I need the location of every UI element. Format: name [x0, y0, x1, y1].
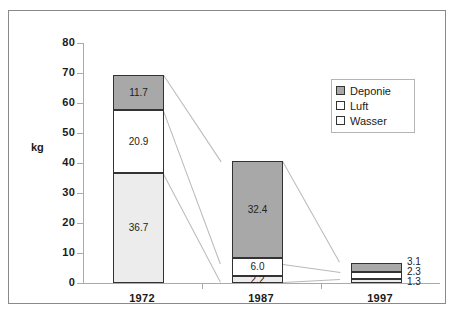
y-tick-label-60-wrap: 60 [9, 96, 75, 110]
y-tick-80 [77, 43, 84, 44]
bar-group-1997[interactable]: 3.1 2.3 1.3 [351, 11, 402, 283]
gray-filled-swatch-icon [336, 86, 345, 95]
y-axis-title: kg [31, 141, 44, 153]
y-tick-label-20: 20 [29, 216, 75, 228]
connector-deponie-luft-1972-1987 [163, 111, 221, 264]
bar-segment-1972-wasser[interactable]: 36.7 [113, 173, 164, 283]
y-tick-label-50: 50 [29, 126, 75, 138]
legend-item-luft[interactable]: Luft [336, 98, 410, 113]
white-swatch-icon [336, 101, 345, 110]
y-tick-label-50-wrap: 50 [9, 126, 75, 140]
y-tick-label-30: 30 [29, 186, 75, 198]
bar-label-1972-wasser: 36.7 [129, 223, 148, 233]
bar-group-1987[interactable]: 2.2 6.0 32.4 [232, 11, 283, 283]
x-tick-divider-2 [321, 283, 322, 289]
figure-frame: kg 80 70 60 50 40 30 20 [8, 10, 446, 304]
y-tick-label-20-wrap: 20 [9, 216, 75, 230]
bar-group-1972[interactable]: 36.7 20.9 11.7 [113, 11, 164, 283]
y-tick-label-0: 0 [29, 276, 75, 288]
bar-segment-1997-deponie[interactable] [351, 263, 402, 272]
bar-label-1972-luft: 20.9 [129, 137, 148, 147]
legend-item-wasser[interactable]: Wasser [336, 113, 410, 128]
y-tick-30 [77, 193, 84, 194]
bar-label-1987-deponie: 32.4 [248, 205, 267, 215]
y-tick-0 [77, 283, 84, 284]
y-tick-label-40: 40 [29, 156, 75, 168]
bar-segment-1997-luft[interactable] [351, 272, 402, 279]
y-tick-20 [77, 223, 84, 224]
y-tick-label-0-wrap: 0 [9, 276, 75, 290]
legend-label-deponie: Deponie [350, 85, 391, 97]
bar-segment-1997-wasser[interactable] [351, 279, 402, 283]
bar-label-1987-luft: 6.0 [251, 262, 265, 272]
y-tick-label-60: 60 [29, 96, 75, 108]
y-tick-label-80: 80 [29, 36, 75, 48]
x-tick-label-1972: 1972 [102, 292, 182, 304]
x-tick-label-1987: 1987 [221, 292, 301, 304]
connector-top-1972-1987 [163, 75, 221, 162]
bar-segment-1987-luft[interactable]: 6.0 [232, 258, 283, 276]
x-tick-divider-1 [202, 283, 203, 289]
y-tick-label-40-wrap: 40 [9, 156, 75, 170]
bar-segment-1987-deponie[interactable]: 32.4 [232, 161, 283, 258]
legend-label-luft: Luft [350, 100, 368, 112]
y-tick-70 [77, 73, 84, 74]
y-tick-label-70: 70 [29, 66, 75, 78]
legend: Deponie Luft Wasser [331, 79, 415, 133]
y-tick-label-10-wrap: 10 [9, 246, 75, 260]
y-tick-60 [77, 103, 84, 104]
y-tick-10 [77, 253, 84, 254]
chart-screenshot: kg 80 70 60 50 40 30 20 [0, 0, 455, 317]
legend-label-wasser: Wasser [350, 115, 387, 127]
y-tick-50 [77, 133, 84, 134]
y-tick-label-70-wrap: 70 [9, 66, 75, 80]
legend-item-deponie[interactable]: Deponie [336, 83, 410, 98]
light-gray-swatch-icon [336, 116, 345, 125]
connector-top-1987-1997b [282, 161, 340, 263]
x-tick-label-1997: 1997 [340, 292, 420, 304]
connector-deponie-luft-1987-1997 [283, 264, 340, 273]
bar-label-1972-deponie: 11.7 [129, 88, 148, 98]
y-tick-label-30-wrap: 30 [9, 186, 75, 200]
bar-segment-1972-deponie[interactable]: 11.7 [113, 75, 164, 110]
bar-segment-1972-luft[interactable]: 20.9 [113, 110, 164, 173]
y-tick-40 [77, 163, 84, 164]
y-tick-label-80-wrap: 80 [9, 36, 75, 50]
bar-label-1997-wasser: 1.3 [407, 277, 421, 287]
bar-segment-1987-wasser[interactable]: 2.2 [232, 276, 283, 283]
y-tick-label-10: 10 [29, 246, 75, 258]
